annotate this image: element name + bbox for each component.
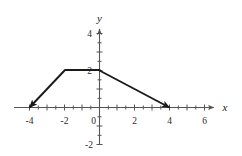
y-axis-label: y [96, 12, 102, 24]
x-axis-ticks [30, 105, 205, 111]
x-axis: -4 -2 0 2 4 6 x [14, 101, 228, 126]
x-tick-label-minus4: -4 [26, 116, 34, 126]
y-axis: 4 2 -2 y [85, 12, 102, 150]
x-tick-label-4: 4 [167, 116, 172, 126]
graph-figure: -4 -2 0 2 4 6 x [0, 0, 242, 156]
x-tick-label-6: 6 [202, 116, 207, 126]
curve-segment-descending [100, 71, 170, 108]
curve-segment-ascending [30, 70, 66, 108]
x-tick-label-2: 2 [132, 116, 137, 126]
x-tick-label-zero: 0 [91, 116, 96, 126]
y-tick-label-2: 2 [87, 66, 92, 76]
y-tick-label-4: 4 [87, 29, 92, 39]
x-tick-label-minus2: -2 [61, 116, 69, 126]
coordinate-plane: -4 -2 0 2 4 6 x [0, 0, 242, 156]
y-tick-label-minus2: -2 [85, 140, 93, 150]
x-axis-label: x [222, 101, 228, 113]
